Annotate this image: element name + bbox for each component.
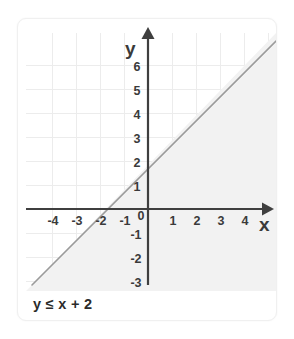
- y-tick-label: -3: [128, 277, 144, 290]
- x-axis-label: x: [259, 215, 270, 234]
- y-tick-label: 3: [130, 133, 144, 146]
- x-tick-label: -3: [70, 215, 84, 228]
- y-axis-label: y: [125, 39, 136, 58]
- graph-card: -4 -3 -2 -1 0 1 2 3 4 6 5 4 3 2 1 -1 -2 …: [17, 18, 277, 321]
- y-tick-label: 6: [130, 61, 144, 74]
- y-tick-label: 1: [130, 181, 144, 194]
- inequality-caption: y ≤ x + 2: [33, 296, 92, 312]
- graph-svg: [18, 19, 276, 291]
- x-tick-label: -2: [94, 215, 108, 228]
- x-tick-label: 2: [190, 215, 204, 228]
- y-tick-label: -1: [128, 229, 144, 242]
- x-tick-label: 4: [238, 215, 252, 228]
- y-tick-label: -2: [128, 253, 144, 266]
- x-tick-label: 1: [166, 215, 180, 228]
- x-tick-label: 3: [214, 215, 228, 228]
- x-tick-label: -4: [46, 215, 60, 228]
- y-tick-label: 5: [130, 85, 144, 98]
- y-axis-arrow-icon: [142, 27, 155, 39]
- y-tick-label: 2: [130, 157, 144, 170]
- y-tick-label: 4: [130, 109, 144, 122]
- x-tick-label-origin: 0: [134, 210, 148, 223]
- coordinate-plane-figure: -4 -3 -2 -1 0 1 2 3 4 6 5 4 3 2 1 -1 -2 …: [18, 19, 276, 291]
- x-tick-label: -1: [118, 215, 132, 228]
